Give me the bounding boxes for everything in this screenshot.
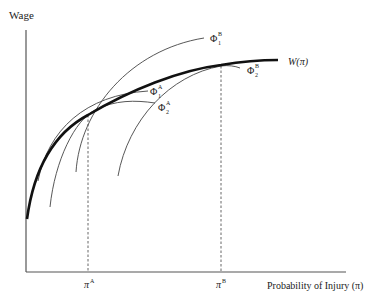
market-wage-curve [27, 60, 278, 219]
svg-text:Φ: Φ [158, 102, 165, 113]
label-phi1-b: Φ B 1 [210, 31, 222, 46]
indifference-curve-phi2-b [118, 66, 240, 176]
indifference-curve-phi2-a [50, 101, 155, 207]
tick-pi-a: π A [84, 278, 95, 290]
y-axis-label: Wage [9, 9, 34, 21]
svg-text:B: B [218, 31, 222, 37]
svg-text:A: A [158, 84, 163, 90]
tick-pi-b: π B [216, 278, 226, 290]
svg-text:Φ: Φ [247, 65, 254, 76]
svg-text:2: 2 [255, 72, 258, 78]
label-phi2-b: Φ B 2 [247, 63, 259, 78]
svg-text:1: 1 [158, 93, 161, 99]
svg-text:2: 2 [166, 109, 169, 115]
market-curve-label: W(π) [288, 56, 309, 68]
hedonic-wage-diagram: Wage Probability of Injury (π) W(π) π A … [0, 0, 380, 302]
svg-text:B: B [222, 278, 226, 284]
svg-text:Φ: Φ [150, 86, 157, 97]
label-phi2-a: Φ A 2 [158, 100, 171, 115]
svg-text:A: A [166, 100, 171, 106]
x-axis-label: Probability of Injury (π) [267, 280, 363, 292]
indifference-curve-phi1-b [76, 38, 204, 172]
svg-text:Φ: Φ [210, 33, 217, 44]
svg-text:B: B [255, 63, 259, 69]
svg-text:A: A [90, 278, 95, 284]
svg-text:1: 1 [218, 40, 221, 46]
